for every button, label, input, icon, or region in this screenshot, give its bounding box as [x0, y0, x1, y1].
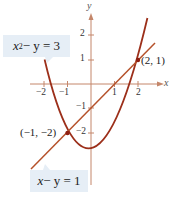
x-axis-arrow-icon — [157, 82, 164, 87]
intersection-point-2-1 — [136, 58, 140, 62]
graph-canvas — [0, 0, 176, 200]
x-tick-2: 2 — [136, 87, 141, 97]
x-tick-neg2: −2 — [36, 87, 46, 97]
y-tick-neg2: −2 — [76, 126, 86, 136]
y-tick-2: 2 — [80, 28, 85, 38]
parabola-equation-label: x2 − y = 3 — [3, 35, 70, 57]
line-curve — [31, 43, 155, 169]
diagram: y x −2 −1 1 2 2 1 −1 −2 (2, 1) (−1, −2) … — [0, 0, 176, 200]
y-tick-1: 1 — [80, 53, 85, 63]
point-label-2-1: (2, 1) — [141, 54, 165, 66]
y-tick-neg1: −1 — [76, 101, 86, 111]
eq-rest: − y = 3 — [23, 38, 60, 54]
parabola-label-pointer — [45, 57, 53, 63]
eq-rest: − y = 1 — [43, 173, 80, 189]
y-axis-arrow-icon — [89, 13, 94, 20]
x-axis-label: x — [164, 77, 168, 88]
intersection-point-neg1-neg2 — [65, 131, 69, 135]
line-equation-label: x − y = 1 — [30, 170, 88, 192]
x-tick-neg1: −1 — [59, 87, 69, 97]
x-tick-1: 1 — [112, 87, 117, 97]
point-label-neg1-neg2: (−1, −2) — [20, 126, 56, 138]
y-axis-label: y — [87, 0, 91, 11]
